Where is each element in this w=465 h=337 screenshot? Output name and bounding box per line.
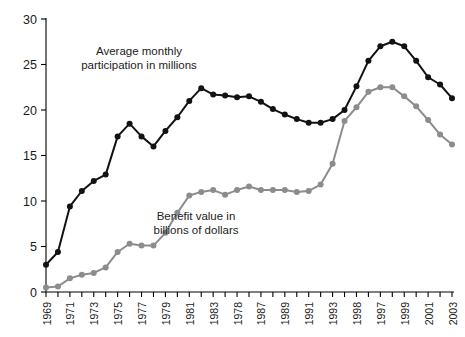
x-tick-label: 1981 <box>184 302 196 326</box>
series-participation <box>43 39 455 268</box>
data-point <box>234 187 240 193</box>
data-point <box>353 83 359 89</box>
annotation-line: billions of dollars <box>153 224 238 236</box>
data-point <box>330 116 336 122</box>
x-tick-label: 1971 <box>64 302 76 326</box>
line-chart: 051015202530 196919711973197519771979198… <box>0 0 465 337</box>
data-point <box>210 187 216 193</box>
data-point <box>270 106 276 112</box>
data-point <box>318 182 324 188</box>
y-tick-label: 10 <box>23 195 37 209</box>
x-tick-label: 1973 <box>88 302 100 326</box>
participation-annotation: Average monthlyparticipation in millions <box>81 45 197 71</box>
annotation-line: Benefit value in <box>157 210 236 222</box>
data-point <box>282 187 288 193</box>
x-axis: 1969197119731975197719791981198319781987… <box>41 292 459 325</box>
data-point <box>401 93 407 99</box>
data-point <box>198 189 204 195</box>
data-point <box>306 188 312 194</box>
x-tick-label: 1969 <box>41 302 53 326</box>
data-point <box>437 82 443 88</box>
data-point <box>79 272 85 278</box>
series-benefit <box>43 84 455 290</box>
y-tick-label: 20 <box>23 104 37 118</box>
x-tick-label: 1991 <box>303 302 315 326</box>
x-tick-label: 1987 <box>255 302 267 326</box>
data-point <box>174 114 180 120</box>
chart-canvas: 051015202530 196919711973197519771979198… <box>0 0 465 337</box>
data-point <box>43 284 49 290</box>
series-line <box>46 42 452 265</box>
data-series-group <box>43 39 455 291</box>
data-point <box>150 143 156 149</box>
x-tick-label: 2001 <box>423 302 435 326</box>
y-tick-label: 15 <box>23 149 37 163</box>
data-point <box>186 193 192 199</box>
x-tick-label: 1997 <box>375 302 387 326</box>
data-point <box>330 161 336 167</box>
data-point <box>222 92 228 98</box>
annotations-group: Average monthlyparticipation in millions… <box>81 45 239 236</box>
data-point <box>127 121 133 127</box>
data-point <box>425 74 431 80</box>
data-point <box>139 133 145 139</box>
data-point <box>139 243 145 249</box>
data-point <box>234 94 240 100</box>
data-point <box>425 117 431 123</box>
data-point <box>258 99 264 105</box>
x-tick-label: 1975 <box>112 302 124 326</box>
data-point <box>43 262 49 268</box>
data-point <box>294 189 300 195</box>
data-point <box>365 58 371 64</box>
data-point <box>150 243 156 249</box>
data-point <box>365 89 371 95</box>
data-point <box>377 84 383 90</box>
data-point <box>103 172 109 178</box>
data-point <box>115 133 121 139</box>
data-point <box>342 118 348 124</box>
data-point <box>91 270 97 276</box>
x-tick-label: 1978 <box>232 302 244 326</box>
data-point <box>186 98 192 104</box>
x-tick-label: 2003 <box>447 302 459 326</box>
y-axis: 051015202530 <box>23 13 46 300</box>
data-point <box>67 203 73 209</box>
data-point <box>103 264 109 270</box>
x-tick-label: 1998 <box>351 302 363 326</box>
x-tick-label: 1999 <box>399 302 411 326</box>
data-point <box>55 249 61 255</box>
x-tick-label: 1977 <box>136 302 148 326</box>
data-point <box>449 142 455 148</box>
data-point <box>115 249 121 255</box>
data-point <box>222 192 228 198</box>
y-tick-label: 30 <box>23 13 37 27</box>
data-point <box>270 187 276 193</box>
x-tick-label: 1983 <box>208 302 220 326</box>
data-point <box>389 39 395 45</box>
y-tick-label: 25 <box>23 58 37 72</box>
y-tick-label: 0 <box>30 286 37 300</box>
data-point <box>258 187 264 193</box>
data-point <box>294 116 300 122</box>
data-point <box>91 178 97 184</box>
data-point <box>401 43 407 49</box>
data-point <box>413 103 419 109</box>
y-tick-label: 5 <box>30 240 37 254</box>
data-point <box>282 112 288 118</box>
annotation-line: Average monthly <box>96 45 182 57</box>
data-point <box>127 241 133 247</box>
data-point <box>210 92 216 98</box>
data-point <box>306 120 312 126</box>
data-point <box>55 284 61 290</box>
data-point <box>318 120 324 126</box>
data-point <box>246 93 252 99</box>
data-point <box>377 43 383 49</box>
data-point <box>246 183 252 189</box>
x-tick-label: 1979 <box>160 302 172 326</box>
data-point <box>79 188 85 194</box>
data-point <box>353 104 359 110</box>
data-point <box>389 84 395 90</box>
data-point <box>449 95 455 101</box>
data-point <box>413 58 419 64</box>
data-point <box>342 107 348 113</box>
